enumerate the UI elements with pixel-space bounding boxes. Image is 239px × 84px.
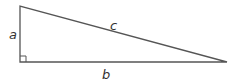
right-triangle-diagram: a c b	[0, 0, 239, 84]
side-b-label: b	[102, 67, 110, 82]
triangle-shape	[20, 6, 227, 62]
right-angle-marker	[20, 56, 26, 62]
side-c-label: c	[110, 18, 117, 33]
side-a-label: a	[9, 27, 17, 42]
